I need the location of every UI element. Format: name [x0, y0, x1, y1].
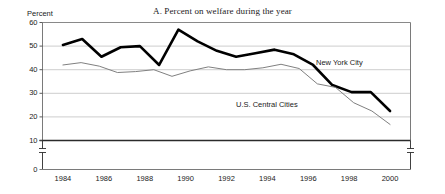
series-annotation: New York City	[316, 58, 363, 67]
chart-figure: A. Percent on welfare during the year Pe…	[0, 0, 445, 194]
x-tick-label: 1998	[332, 174, 366, 183]
x-tick-label: 1986	[87, 174, 121, 183]
gridlines	[43, 46, 411, 117]
x-tick-label: 1994	[250, 174, 284, 183]
y-tick-label: 40	[21, 65, 38, 74]
y-tick-label: 60	[21, 18, 38, 27]
y-tick-label: 0	[21, 165, 38, 174]
y-tick-label: 30	[21, 88, 38, 97]
series-lines	[63, 30, 390, 125]
x-tick-label: 1984	[46, 174, 80, 183]
y-tick-label: 50	[21, 41, 38, 50]
plot-area	[0, 0, 445, 194]
x-tick-label: 1996	[291, 174, 325, 183]
x-tick-label: 2000	[373, 174, 407, 183]
x-tick-label: 1988	[128, 174, 162, 183]
axes	[39, 23, 414, 170]
series-annotation: U.S. Central Cities	[236, 100, 298, 109]
x-tick-label: 1992	[210, 174, 244, 183]
y-tick-label: 10	[21, 136, 38, 145]
x-tick-label: 1990	[169, 174, 203, 183]
y-tick-label: 20	[21, 112, 38, 121]
